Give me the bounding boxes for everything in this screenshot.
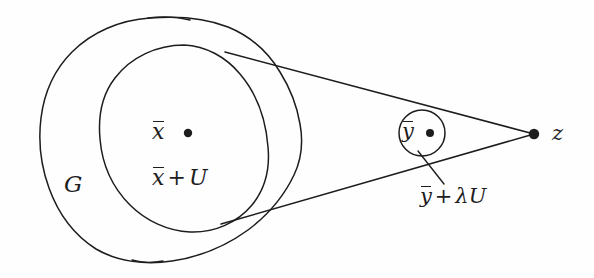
upper-tangent-line <box>225 52 534 134</box>
x-bar-plus-U-overbar <box>153 167 164 169</box>
label-z-point-text: z <box>552 121 563 145</box>
open-set-G-outline <box>40 17 302 262</box>
y-bar-overbar-wrap: y <box>402 121 414 142</box>
label-open-set-G: G <box>64 173 82 196</box>
label-z-point: z <box>552 123 563 144</box>
y-bar-point-dot <box>426 129 434 137</box>
diagram-svg <box>0 0 594 278</box>
y-bar-overbar <box>403 121 413 123</box>
label-x-bar: x <box>152 121 164 143</box>
neighborhood-x-plus-U-outline <box>99 45 268 232</box>
label-open-set-G-text: G <box>64 171 82 197</box>
label-x-bar-text: x <box>152 119 164 144</box>
label-x-bar-plus-U-base: x <box>152 165 164 190</box>
math-figure-canvas: G x x +U y y +λU z <box>0 0 594 278</box>
label-lambda-scalar: λ <box>455 184 468 208</box>
label-y-bar-plus-lambda-U-set: U <box>469 184 487 208</box>
z-point-dot <box>529 129 539 139</box>
x-bar-point-dot <box>184 129 192 137</box>
label-y-bar-plus-lambda-U-operator: + <box>432 184 455 208</box>
x-bar-overbar <box>153 121 164 123</box>
label-x-bar-plus-U-set: U <box>189 165 208 190</box>
label-x-bar-plus-U: x +U <box>152 167 208 189</box>
x-bar-overbar-wrap: x <box>152 121 164 143</box>
label-y-bar-plus-lambda-U-base: y <box>420 184 432 208</box>
y-bar-plus-lambda-U-overbar-wrap: y <box>420 186 432 207</box>
label-y-bar-text: y <box>402 119 414 143</box>
label-x-bar-plus-U-operator: + <box>164 165 189 190</box>
label-y-bar: y <box>402 121 414 142</box>
x-bar-plus-U-overbar-wrap: x <box>152 167 164 189</box>
leader-line-to-small-set-label <box>418 151 444 184</box>
label-y-bar-plus-lambda-U: y +λU <box>420 186 486 207</box>
y-bar-plus-lambda-U-overbar <box>421 186 431 188</box>
